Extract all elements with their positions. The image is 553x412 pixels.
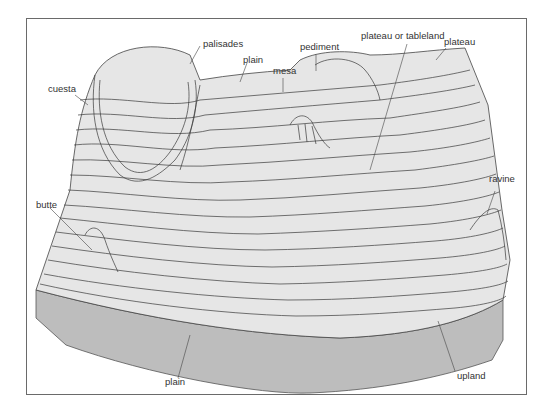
label-palisades: palisades bbox=[203, 39, 243, 49]
label-mesa: mesa bbox=[273, 66, 296, 76]
label-plain-top: plain bbox=[243, 55, 263, 65]
label-ravine: ravine bbox=[489, 174, 515, 184]
label-plateau: plateau bbox=[444, 37, 475, 47]
landform-block-diagram bbox=[0, 0, 553, 412]
leader-palisades bbox=[190, 46, 200, 64]
label-cuesta: cuesta bbox=[48, 84, 76, 94]
label-butte: butte bbox=[36, 200, 57, 210]
label-upland: upland bbox=[457, 371, 486, 381]
label-plateau-or-tableland: plateau or tableland bbox=[361, 31, 444, 41]
label-pediment: pediment bbox=[300, 42, 339, 52]
label-plain-bottom: plain bbox=[165, 377, 185, 387]
